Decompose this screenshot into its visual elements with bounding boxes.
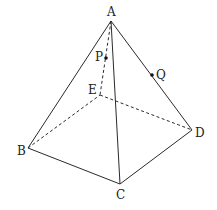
label-E: E: [88, 83, 97, 97]
edge-DE: [100, 95, 192, 130]
point-P: [104, 56, 108, 60]
edge-BE: [28, 95, 100, 148]
edge-CD: [120, 130, 192, 184]
edge-BC: [28, 148, 120, 184]
label-A: A: [106, 5, 116, 19]
label-P: P: [95, 50, 103, 64]
label-Q: Q: [156, 68, 166, 82]
label-D: D: [195, 126, 205, 140]
label-B: B: [17, 144, 26, 158]
label-C: C: [116, 188, 125, 202]
edge-AC: [111, 21, 120, 184]
pyramid-diagram: A B C D E P Q: [0, 0, 217, 210]
edge-AB: [28, 21, 111, 148]
point-Q: [150, 73, 154, 77]
